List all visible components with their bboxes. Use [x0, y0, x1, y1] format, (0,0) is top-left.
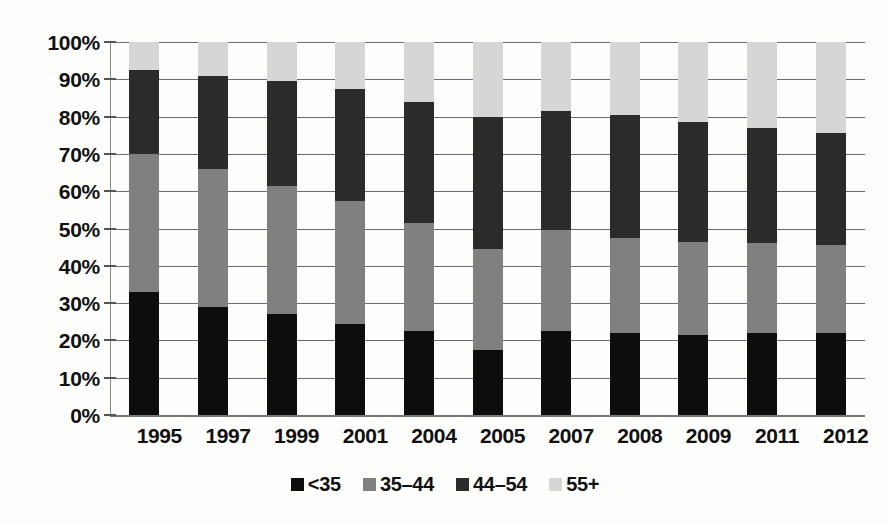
bar-segment[interactable] — [335, 42, 365, 89]
bar-segment[interactable] — [473, 117, 503, 249]
legend-swatch-icon — [291, 478, 304, 491]
bar-column[interactable] — [267, 42, 297, 415]
bar-segment[interactable] — [747, 333, 777, 415]
bar-segment[interactable] — [610, 238, 640, 333]
bar-segment[interactable] — [129, 292, 159, 415]
stacked-bar-chart: 0%10%20%30%40%50%60%70%80%90%100% 199519… — [0, 0, 890, 525]
bar-column[interactable] — [541, 42, 571, 415]
legend-item[interactable]: 55+ — [549, 473, 599, 496]
bar-column[interactable] — [198, 42, 228, 415]
legend-swatch-icon — [363, 478, 376, 491]
bar-segment[interactable] — [404, 331, 434, 415]
bar-column[interactable] — [678, 42, 708, 415]
bar-segment[interactable] — [541, 42, 571, 111]
bar-segment[interactable] — [816, 42, 846, 133]
y-axis-tick-mark — [104, 265, 116, 267]
bar-segment[interactable] — [404, 102, 434, 223]
bar-segment[interactable] — [678, 242, 708, 335]
legend-item[interactable]: 35–44 — [363, 473, 434, 496]
bar-segment[interactable] — [473, 350, 503, 415]
bar-column[interactable] — [610, 42, 640, 415]
bar-segment[interactable] — [816, 333, 846, 415]
y-axis-tick-label: 20% — [0, 330, 100, 351]
bar-segment[interactable] — [198, 307, 228, 415]
y-axis-tick-mark — [104, 153, 116, 155]
legend-swatch-icon — [456, 478, 469, 491]
legend-label: 44–54 — [473, 473, 527, 496]
bar-column[interactable] — [129, 42, 159, 415]
bars-layer — [110, 42, 865, 415]
bar-column[interactable] — [335, 42, 365, 415]
legend-label: <35 — [308, 473, 341, 496]
bar-column[interactable] — [747, 42, 777, 415]
bar-segment[interactable] — [267, 314, 297, 415]
bar-segment[interactable] — [678, 122, 708, 241]
legend-item[interactable]: 44–54 — [456, 473, 527, 496]
bar-segment[interactable] — [335, 324, 365, 415]
bar-column[interactable] — [816, 42, 846, 415]
bar-segment[interactable] — [267, 81, 297, 185]
y-axis-tick-mark — [104, 116, 116, 118]
bar-segment[interactable] — [747, 128, 777, 244]
bar-column[interactable] — [473, 42, 503, 415]
bar-segment[interactable] — [473, 249, 503, 350]
y-axis-tick-mark — [104, 190, 116, 192]
bar-segment[interactable] — [816, 245, 846, 333]
bar-segment[interactable] — [610, 115, 640, 238]
bar-segment[interactable] — [610, 42, 640, 115]
bar-segment[interactable] — [747, 243, 777, 333]
y-axis-tick-mark — [104, 339, 116, 341]
bar-segment[interactable] — [129, 154, 159, 292]
bar-segment[interactable] — [541, 111, 571, 230]
x-axis-tick-label: 2012 — [806, 424, 886, 448]
bar-segment[interactable] — [267, 186, 297, 315]
x-axis-line — [110, 415, 865, 417]
bar-segment[interactable] — [678, 42, 708, 122]
bar-segment[interactable] — [129, 42, 159, 70]
bar-column[interactable] — [404, 42, 434, 415]
y-axis-tick-label: 50% — [0, 218, 100, 239]
y-axis-tick-mark — [104, 414, 116, 416]
bar-segment[interactable] — [198, 42, 228, 76]
y-axis-tick-label: 80% — [0, 106, 100, 127]
x-axis: 1995199719992001200420052007200820092011… — [110, 424, 865, 454]
y-axis-tick-mark — [104, 228, 116, 230]
y-axis-tick-label: 90% — [0, 69, 100, 90]
chart-legend: <3535–4444–5455+ — [0, 473, 890, 496]
y-axis-tick-mark — [104, 78, 116, 80]
bar-segment[interactable] — [198, 169, 228, 307]
bar-segment[interactable] — [816, 133, 846, 245]
y-axis-tick-label: 40% — [0, 255, 100, 276]
bar-segment[interactable] — [335, 89, 365, 201]
y-axis-tick-label: 30% — [0, 293, 100, 314]
y-axis-tick-mark — [104, 302, 116, 304]
y-axis-tick-label: 10% — [0, 367, 100, 388]
bar-segment[interactable] — [541, 331, 571, 415]
bar-segment[interactable] — [678, 335, 708, 415]
legend-label: 35–44 — [380, 473, 434, 496]
y-axis: 0%10%20%30%40%50%60%70%80%90%100% — [0, 42, 100, 415]
y-axis-tick-label: 70% — [0, 143, 100, 164]
y-axis-tick-label: 100% — [0, 32, 100, 53]
y-axis-tick-mark — [104, 41, 116, 43]
bar-segment[interactable] — [610, 333, 640, 415]
bar-segment[interactable] — [198, 76, 228, 169]
bar-segment[interactable] — [404, 42, 434, 102]
bar-segment[interactable] — [267, 42, 297, 81]
bar-segment[interactable] — [404, 223, 434, 331]
y-axis-tick-label: 0% — [0, 405, 100, 426]
bar-segment[interactable] — [473, 42, 503, 117]
bar-segment[interactable] — [129, 70, 159, 154]
bar-segment[interactable] — [541, 230, 571, 331]
y-axis-tick-label: 60% — [0, 181, 100, 202]
y-axis-tick-mark — [104, 377, 116, 379]
bar-segment[interactable] — [335, 201, 365, 324]
legend-label: 55+ — [566, 473, 599, 496]
bar-segment[interactable] — [747, 42, 777, 128]
legend-item[interactable]: <35 — [291, 473, 341, 496]
legend-swatch-icon — [549, 478, 562, 491]
